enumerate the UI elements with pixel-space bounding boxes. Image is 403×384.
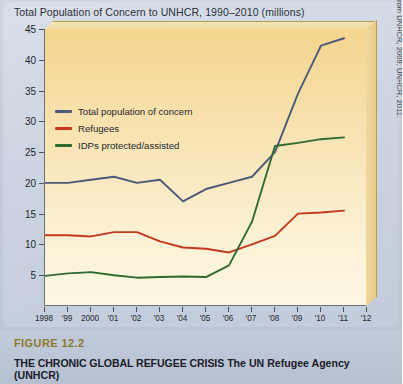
x-tick-mark [67, 307, 68, 312]
legend-item: Refugees [55, 120, 193, 137]
x-tick-mark [205, 307, 206, 312]
legend-swatch-refugees [55, 127, 72, 130]
legend-item: Total population of concern [55, 103, 193, 120]
y-tick-label: 25 [10, 147, 36, 158]
y-tick-label: 10 [10, 239, 36, 250]
x-tick-mark [159, 307, 160, 312]
legend-item: IDPs protected/assisted [55, 137, 193, 154]
legend-swatch-total [55, 110, 72, 113]
caption-headline: THE CHRONIC GLOBAL REFUGEE CRISIS [14, 357, 224, 369]
y-tick-label: 20 [10, 177, 36, 188]
x-tick-mark [113, 307, 114, 312]
y-tick-label: 45 [10, 24, 36, 35]
x-tick-mark [228, 307, 229, 312]
y-tick-mark [39, 29, 44, 30]
y-tick-mark [39, 91, 44, 92]
figure-number: FIGURE 12.2 [14, 337, 84, 349]
x-tick-mark [274, 307, 275, 312]
y-tick-label: 15 [10, 208, 36, 219]
x-tick-mark [320, 307, 321, 312]
caption-text: THE CHRONIC GLOBAL REFUGEE CRISIS The UN… [14, 357, 396, 381]
source-note: Source: Based on data from UNHCR, 2009; … [394, 0, 403, 118]
series-lines [45, 29, 367, 306]
y-tick-mark [39, 152, 44, 153]
chart-title: Total Population of Concern to UNHCR, 19… [14, 6, 305, 18]
x-tick-mark [44, 307, 45, 312]
legend-label-total: Total population of concern [78, 106, 193, 117]
x-tick-mark [90, 307, 91, 312]
chart-legend: Total population of concern Refugees IDP… [55, 103, 193, 154]
y-tick-label: 5 [10, 270, 36, 281]
x-tick-label: '12 [352, 314, 380, 323]
x-tick-mark [366, 307, 367, 312]
y-tick-mark [39, 214, 44, 215]
y-tick-mark [39, 60, 44, 61]
series-line [45, 137, 344, 277]
legend-swatch-idps [55, 144, 72, 147]
x-tick-mark [182, 307, 183, 312]
y-tick-mark [39, 275, 44, 276]
legend-label-idps: IDPs protected/assisted [78, 140, 179, 151]
legend-label-refugees: Refugees [78, 123, 119, 134]
caption-block: FIGURE 12.2 THE CHRONIC GLOBAL REFUGEE C… [0, 330, 402, 384]
y-tick-mark [39, 121, 44, 122]
x-tick-mark [343, 307, 344, 312]
x-tick-mark [251, 307, 252, 312]
y-tick-label: 40 [10, 54, 36, 65]
plot-box-right-face [366, 20, 377, 306]
x-tick-mark [136, 307, 137, 312]
series-line [45, 211, 344, 253]
x-tick-mark [297, 307, 298, 312]
y-tick-mark [39, 183, 44, 184]
plot-box [44, 29, 366, 306]
y-tick-label: 35 [10, 85, 36, 96]
plot-area [44, 29, 366, 306]
y-tick-mark [39, 244, 44, 245]
y-tick-label: 30 [10, 116, 36, 127]
